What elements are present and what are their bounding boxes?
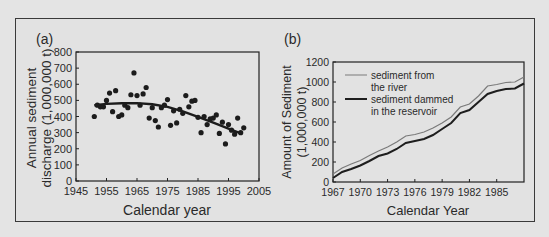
data-point: [128, 92, 133, 97]
data-point: [131, 70, 136, 75]
panel-a-y-axis-title: Annual sediment discharge (1,000,000 t): [24, 49, 54, 188]
data-point: [134, 93, 139, 98]
data-point: [150, 105, 155, 110]
x-tick-label: 1970: [349, 186, 373, 198]
data-point: [144, 85, 149, 90]
panel-b-legend: sediment from the river sediment dammed …: [345, 70, 453, 117]
panel-b-x-axis-title: Calendar Year: [387, 203, 470, 218]
y-tick-label: 800: [311, 96, 329, 108]
y-tick-label: 1200: [306, 56, 330, 68]
legend-label-river-line1: sediment from: [371, 70, 434, 81]
data-point: [153, 118, 158, 123]
x-tick-label: 1982: [458, 186, 482, 198]
x-tick-label: 1995: [216, 185, 240, 197]
data-point: [183, 93, 188, 98]
data-point: [217, 131, 222, 136]
data-point: [205, 122, 210, 127]
panel-a-plot-area: [76, 52, 259, 181]
data-point: [220, 120, 225, 125]
data-point: [241, 125, 246, 130]
x-tick-label: 1945: [64, 185, 88, 197]
x-tick-label: 1979: [430, 186, 454, 198]
y-tick-label: 200: [54, 143, 72, 155]
plot-frame: [76, 52, 259, 181]
data-point: [110, 109, 115, 114]
data-point: [113, 88, 118, 93]
legend-label-reservoir-line1: sediment dammed: [371, 94, 453, 105]
data-point: [119, 112, 124, 117]
data-point: [147, 116, 152, 121]
panel-b-y-axis-title: Amount of Sediment (1,000,000 t): [280, 65, 309, 179]
panel-b-y-title-line2: (1,000,000 t): [295, 87, 309, 158]
data-point: [125, 105, 130, 110]
panel-b-y-title-line1: Amount of Sediment: [280, 65, 294, 179]
x-tick-label: 1976: [403, 186, 427, 198]
x-tick-label: 1967: [321, 186, 345, 198]
legend-label-river-line2: the river: [371, 82, 408, 93]
x-tick-label: 1975: [155, 185, 179, 197]
panel-a-y-title-line2: discharge (1,000,000 t): [39, 49, 54, 188]
legend-label-reservoir-line2: in the reservoir: [371, 106, 438, 117]
y-tick-label: 600: [54, 78, 72, 90]
data-point: [174, 120, 179, 125]
panel-a-x-axis-title: Calendar year: [123, 202, 211, 218]
y-tick-label: 1000: [306, 76, 330, 88]
y-tick-label: 400: [311, 136, 329, 148]
data-point: [226, 122, 231, 127]
data-point: [104, 98, 109, 103]
data-point: [92, 114, 97, 119]
data-point: [214, 112, 219, 117]
data-point: [168, 123, 173, 128]
x-tick-label: 1965: [125, 185, 149, 197]
data-point: [235, 116, 240, 121]
data-point: [198, 130, 203, 135]
data-point: [107, 91, 112, 96]
data-point: [156, 124, 161, 129]
panel-a-y-title-line1: Annual sediment: [24, 67, 39, 168]
data-point: [192, 98, 197, 103]
y-tick-label: 800: [54, 46, 72, 58]
y-tick-label: 600: [311, 116, 329, 128]
panel-a-y-axis: 0100200300400500600700800: [54, 46, 79, 187]
x-tick-label: 1973: [376, 186, 400, 198]
panel-a-chart: (a) 0100200300400500600700800 1945195519…: [24, 31, 271, 218]
y-tick-label: 300: [54, 127, 72, 139]
data-point: [223, 141, 228, 146]
y-tick-label: 400: [54, 111, 72, 123]
data-point: [186, 104, 191, 109]
panel-b-y-axis: 020040060080010001200: [306, 56, 336, 188]
figure-canvas: (a) 0100200300400500600700800 1945195519…: [0, 0, 549, 237]
x-tick-label: 1985: [186, 185, 210, 197]
data-point: [141, 91, 146, 96]
data-point: [165, 97, 170, 102]
y-tick-label: 500: [54, 94, 72, 106]
x-tick-label: 1955: [94, 185, 118, 197]
panel-b-label: (b): [284, 31, 301, 47]
x-tick-label: 1985: [485, 186, 509, 198]
panel-b-chart: (b) 020040060080010001200 19671970197319…: [280, 31, 524, 218]
trend-line: [94, 103, 240, 133]
x-tick-label: 2005: [247, 185, 271, 197]
y-tick-label: 700: [54, 62, 72, 74]
panel-a-label: (a): [36, 31, 53, 47]
y-tick-label: 100: [54, 159, 72, 171]
y-tick-label: 200: [311, 156, 329, 168]
